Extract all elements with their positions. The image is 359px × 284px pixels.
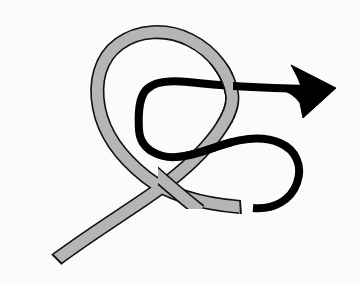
knot-diagram: Knot diagram with gray ribbon loop and b… bbox=[0, 0, 359, 284]
ribbon-head-cap-icon bbox=[240, 200, 241, 214]
figure-canvas: Knot diagram with gray ribbon loop and b… bbox=[0, 0, 359, 284]
